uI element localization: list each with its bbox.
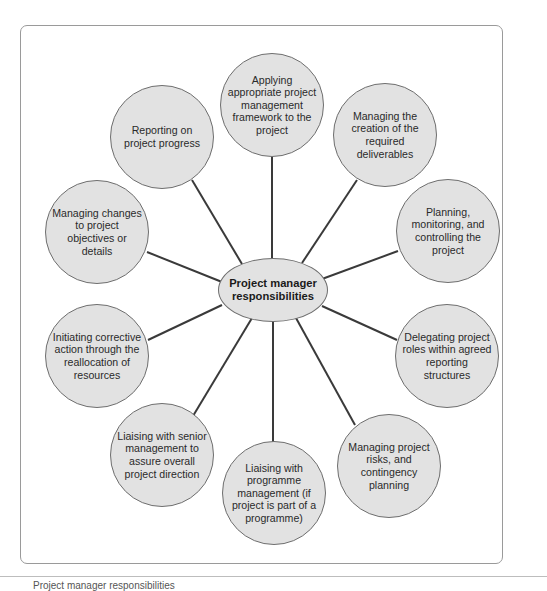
connector-liaising-senior <box>193 318 252 416</box>
node-label: Initiating corrective action through the… <box>46 331 148 381</box>
connector-delegating-roles <box>322 306 397 340</box>
node-label: Liaising with programme management (if p… <box>223 462 325 525</box>
node-label: Applying appropriate project management … <box>221 74 323 137</box>
connector-initiating-corrective <box>148 305 222 340</box>
node-label: Reporting on project progress <box>111 124 213 149</box>
connector-managing-deliverables <box>302 180 357 263</box>
node-label: Planning, monitoring, and controlling th… <box>397 206 499 256</box>
node-managing-risks: Managing project risks, and contingency … <box>337 414 441 518</box>
node-planning-monitoring: Planning, monitoring, and controlling th… <box>396 179 500 283</box>
connector-managing-changes <box>147 252 222 282</box>
node-reporting-progress: Reporting on project progress <box>110 85 214 189</box>
node-label: Liaising with senior management to assur… <box>111 430 213 480</box>
node-label: Managing changes to project objectives o… <box>46 207 148 257</box>
center-label: Project manager responsibilities <box>225 277 321 303</box>
center-node: Project manager responsibilities <box>218 258 328 322</box>
node-delegating-roles: Delegating project roles within agreed r… <box>395 304 499 408</box>
figure-caption: Project manager responsibilities <box>33 580 175 591</box>
node-label: Managing project risks, and contingency … <box>338 441 440 491</box>
node-liaising-senior: Liaising with senior management to assur… <box>110 403 214 507</box>
connector-managing-risks <box>296 318 355 425</box>
node-managing-deliverables: Managing the creation of the required de… <box>333 83 437 187</box>
node-label: Delegating project roles within agreed r… <box>396 331 498 381</box>
node-applying-framework: Applying appropriate project management … <box>220 53 324 157</box>
caption-divider <box>0 576 547 577</box>
node-managing-changes: Managing changes to project objectives o… <box>45 180 149 284</box>
node-liaising-programme: Liaising with programme management (if p… <box>222 441 326 545</box>
connector-planning-monitoring <box>322 251 398 279</box>
connector-reporting-progress <box>192 180 242 264</box>
node-initiating-corrective: Initiating corrective action through the… <box>45 304 149 408</box>
node-label: Managing the creation of the required de… <box>334 110 436 160</box>
